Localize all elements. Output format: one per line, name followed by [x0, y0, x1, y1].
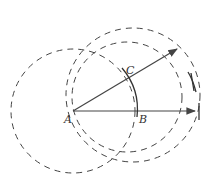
- label-b: B: [138, 113, 147, 126]
- circle-middle: [72, 42, 182, 152]
- circle-large: [66, 28, 200, 162]
- label-c: C: [126, 64, 135, 77]
- ray-ac: [73, 49, 177, 111]
- construction-diagram: A B C: [0, 0, 213, 188]
- label-a: A: [63, 113, 72, 126]
